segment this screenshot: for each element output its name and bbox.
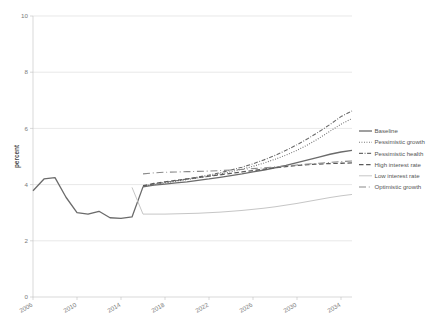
axes-group (30, 16, 352, 300)
x-tick-label: 2026 (238, 301, 254, 314)
y-tick-label: 2 (25, 237, 29, 244)
legend-item-pessimistic-growth[interactable]: Pessimistic growth (359, 138, 425, 145)
x-tick-labels: 20062010201420182022202620302034 (18, 301, 342, 314)
legend-label: High interest rate (375, 161, 422, 168)
series-line-high-interest-rate (143, 163, 352, 186)
legend-label: Pessimistic health (375, 150, 424, 157)
y-tick-label: 6 (25, 125, 29, 132)
chart-container: 0246810 20062010201420182022202620302034… (0, 0, 441, 324)
y-tick-labels: 0246810 (21, 12, 28, 300)
legend-label: Optimistic growth (375, 183, 422, 190)
x-tick-label: 2034 (326, 301, 342, 314)
y-tick-label: 8 (25, 68, 29, 75)
series-line-optimistic-growth (143, 161, 352, 174)
line-chart: 0246810 20062010201420182022202620302034… (0, 0, 441, 324)
series-group (33, 111, 352, 218)
y-axis-title: percent (13, 144, 21, 168)
legend-label: Low interest rate (375, 172, 421, 179)
legend-item-pessimistic-health[interactable]: Pessimistic health (359, 150, 423, 157)
y-tick-label: 4 (25, 181, 29, 188)
legend-item-low-interest-rate[interactable]: Low interest rate (359, 172, 420, 179)
legend-label: Baseline (375, 127, 399, 134)
legend-item-high-interest-rate[interactable]: High interest rate (359, 161, 422, 168)
legend-label: Pessimistic growth (375, 138, 425, 145)
y-tick-label: 10 (21, 12, 28, 19)
series-line-pessimistic-health (143, 111, 352, 186)
legend-item-optimistic-growth[interactable]: Optimistic growth (359, 183, 421, 190)
y-axis-title-text: percent (13, 144, 21, 168)
x-tick-label: 2014 (106, 301, 122, 314)
x-tick-label: 2022 (194, 301, 210, 314)
series-line-low-interest-rate (132, 187, 352, 214)
x-tick-label: 2018 (150, 301, 166, 314)
y-tick-label: 0 (25, 293, 29, 300)
x-tick-label: 2006 (18, 301, 34, 314)
chart-legend: BaselinePessimistic growthPessimistic he… (359, 127, 425, 190)
gridlines-group (33, 16, 352, 241)
legend-item-baseline[interactable]: Baseline (359, 127, 398, 134)
x-tick-label: 2030 (282, 301, 298, 314)
x-tick-label: 2010 (62, 301, 78, 314)
series-line-pessimistic-growth (143, 119, 352, 187)
